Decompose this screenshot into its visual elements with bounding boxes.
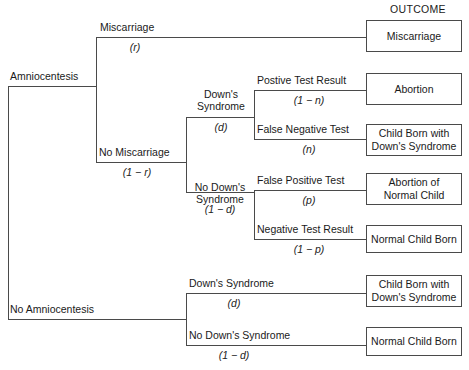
branch-line-false-negative-test [254, 139, 366, 140]
branch-label-no-downs-no-amnio: No Down's Syndrome [189, 329, 290, 341]
branch-prob-downs-amnio: (d) [188, 121, 254, 133]
outcome-box-normal-child-born-amnio: Normal Child Born [366, 225, 462, 253]
branch-prob-false-negative-test: (n) [257, 143, 361, 155]
outcome-box-abortion: Abortion [366, 73, 462, 105]
split-line-test-downs [254, 90, 255, 139]
branch-line-miscarriage [96, 37, 366, 38]
outcome-box-child-born-downs-no-amnio: Child Born with Down's Syndrome [366, 275, 462, 307]
branch-label-false-positive-test: False Positive Test [257, 174, 344, 186]
outcome-box-child-born-downs-amnio: Child Born with Down's Syndrome [366, 124, 462, 156]
branch-prob-downs-no-amnio: (d) [189, 297, 279, 309]
branch-line-positive-test [254, 90, 366, 91]
branch-label-no-miscarriage: No Miscarriage [99, 146, 170, 158]
branch-prob-positive-test: (1 − n) [257, 94, 361, 106]
outcome-box-abortion-normal-child: Abortion of Normal Child [366, 173, 462, 205]
branch-label-negative-test: Negative Test Result [257, 223, 353, 235]
decision-tree-diagram: OUTCOME Amniocentesis No Amniocentesis M… [0, 0, 469, 370]
branch-label-positive-test: Postive Test Result [257, 74, 346, 86]
outcome-box-normal-child-born-no-amnio: Normal Child Born [366, 327, 462, 356]
branch-line-downs-no-amnio [186, 293, 366, 294]
branch-prob-false-positive-test: (p) [257, 194, 361, 206]
branch-label-miscarriage: Miscarriage [100, 21, 154, 33]
branch-label-no-downs-amnio: No Down's Syndrome [185, 181, 255, 205]
branch-prob-miscarriage: (r) [100, 41, 170, 53]
branch-prob-no-downs-no-amnio: (1 − d) [189, 349, 279, 361]
branch-label-downs-amnio: Down's Syndrome [188, 88, 254, 112]
root-trunk-line [8, 86, 9, 319]
branch-line-no-amniocentesis [8, 319, 186, 320]
branch-line-downs-amnio [186, 117, 254, 118]
branch-label-downs-no-amnio: Down's Syndrome [189, 277, 274, 289]
branch-label-no-amniocentesis: No Amniocentesis [10, 303, 94, 315]
branch-line-amniocentesis [8, 86, 96, 87]
split-line-downs-no-amnio [186, 293, 187, 345]
branch-prob-no-downs-amnio: (1 − d) [185, 203, 255, 215]
outcome-box-miscarriage: Miscarriage [366, 20, 462, 52]
branch-label-amniocentesis: Amniocentesis [10, 70, 78, 82]
split-line-test-no-downs [254, 190, 255, 239]
outcome-column-header: OUTCOME [373, 3, 463, 15]
branch-prob-negative-test: (1 − p) [257, 243, 361, 255]
branch-label-false-negative-test: False Negative Test [257, 123, 349, 135]
branch-prob-no-miscarriage: (1 − r) [99, 166, 175, 178]
branch-line-no-downs-no-amnio [186, 345, 366, 346]
branch-line-false-positive-test [254, 190, 366, 191]
branch-line-negative-test [254, 239, 366, 240]
split-line-miscarriage [96, 37, 97, 162]
branch-line-no-miscarriage [96, 162, 186, 163]
